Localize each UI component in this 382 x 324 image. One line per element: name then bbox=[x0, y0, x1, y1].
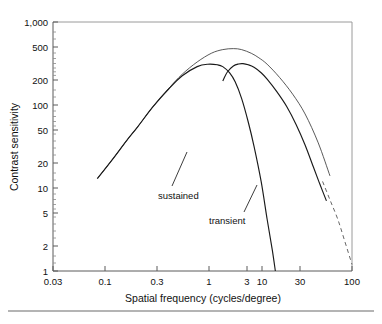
y-tick-label: 5 bbox=[43, 208, 48, 219]
x-tick-label: 0.3 bbox=[150, 276, 163, 287]
annotation-sustained: sustained bbox=[158, 190, 199, 201]
y-tick-label: 20 bbox=[37, 158, 48, 169]
curve-envelope bbox=[97, 49, 330, 179]
data-curves bbox=[97, 49, 352, 271]
figure-page: 1,000 500 200 100 50 20 10 5 2 1 0.03 0.… bbox=[0, 0, 382, 324]
x-tick-label: 1 bbox=[206, 276, 211, 287]
y-tick-label: 1,000 bbox=[24, 17, 48, 28]
x-tick-label: 3 bbox=[244, 276, 249, 287]
y-tick-label: 10 bbox=[37, 183, 48, 194]
transient-leader-line bbox=[244, 185, 257, 212]
curve-sustained bbox=[97, 64, 275, 271]
curve-transient bbox=[223, 64, 327, 201]
y-tick-label: 200 bbox=[32, 75, 48, 86]
y-tick-label: 2 bbox=[43, 241, 48, 252]
contrast-sensitivity-chart: 1,000 500 200 100 50 20 10 5 2 1 0.03 0.… bbox=[0, 0, 382, 324]
y-tick-label: 50 bbox=[37, 125, 48, 136]
x-axis-ticks bbox=[53, 266, 352, 271]
sustained-leader-line bbox=[172, 152, 187, 186]
curve-transient-extrapolated bbox=[323, 181, 352, 264]
y-axis-title: Contrast sensitivity bbox=[8, 102, 20, 191]
y-axis-major-ticks bbox=[53, 22, 58, 271]
y-tick-label: 500 bbox=[32, 42, 48, 53]
x-tick-label: 30 bbox=[295, 276, 306, 287]
annotation-leaders bbox=[172, 152, 257, 212]
annotation-transient: transient bbox=[209, 215, 246, 226]
x-axis-tick-labels: 0.03 0.1 0.3 1 3 10 30 100 bbox=[44, 276, 360, 287]
x-tick-label: 0.1 bbox=[98, 276, 111, 287]
y-axis-tick-labels: 1,000 500 200 100 50 20 10 5 2 1 bbox=[24, 17, 48, 277]
x-tick-label: 100 bbox=[344, 276, 360, 287]
y-tick-label: 100 bbox=[32, 100, 48, 111]
x-axis-title: Spatial frequency (cycles/degree) bbox=[125, 292, 281, 304]
plot-frame bbox=[53, 22, 352, 271]
x-tick-label: 0.03 bbox=[44, 276, 63, 287]
y-tick-label: 1 bbox=[43, 266, 48, 277]
x-tick-label: 10 bbox=[257, 276, 268, 287]
